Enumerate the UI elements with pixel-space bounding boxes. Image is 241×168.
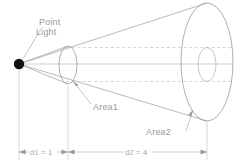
- point-light-diagram: Point Light Area1 Area2 d1 = 1: [0, 0, 241, 168]
- dim-arrow-d1-right: [62, 150, 69, 155]
- point-light-label-line2: Light: [36, 27, 57, 37]
- dimension-extension-lines: [19, 70, 207, 160]
- dim-d2-label: d2 = 4: [125, 148, 147, 157]
- area2-ellipse-group: [181, 3, 233, 121]
- dim-arrow-d2-left: [68, 150, 75, 155]
- ray-area1-lower: [19, 64, 68, 84]
- area1-ellipse: [59, 46, 77, 84]
- area2-ellipse: [181, 3, 233, 121]
- area2-label: Area2: [146, 127, 171, 137]
- point-light-label-line1: Point: [39, 17, 61, 27]
- dimension-d2-group: d2 = 4: [68, 147, 207, 157]
- dim-arrow-d2-right: [201, 150, 208, 155]
- area1-cone-rays: [19, 46, 68, 84]
- point-light-source-dot: [14, 59, 24, 69]
- area1-ellipse-group: [59, 46, 77, 84]
- dim-d1-label: d1 = 1: [30, 148, 52, 157]
- diagram-canvas: Point Light Area1 Area2 d1 = 1: [0, 0, 241, 168]
- dimension-d1-group: d1 = 1: [19, 147, 68, 157]
- area2-ellipse-inner-projection: [198, 48, 216, 82]
- projection-dashed-lines: [66, 48, 233, 82]
- dim-arrow-d1-left: [19, 150, 26, 155]
- area1-label: Area1: [93, 102, 118, 112]
- ray-lower-outer: [19, 64, 207, 121]
